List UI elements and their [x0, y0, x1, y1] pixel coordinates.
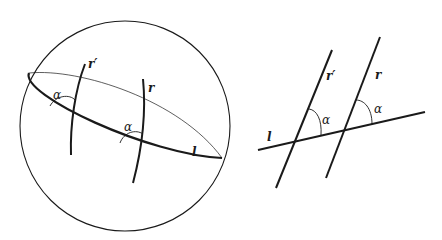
angle-arc-plane-2: [356, 100, 372, 124]
label-r-prime-plane: r′: [326, 69, 336, 83]
label-alpha-1: α: [53, 88, 61, 102]
label-r: r: [148, 81, 156, 95]
angle-arc-plane-1: [309, 109, 321, 135]
line-l-plane: [258, 112, 425, 150]
label-r-plane: r: [375, 68, 383, 82]
diagram-canvas: r′ r α α l r′ r α α l: [0, 0, 442, 240]
label-alpha-plane-2: α: [374, 102, 382, 116]
label-alpha-plane-1: α: [322, 113, 330, 127]
label-l-plane: l: [267, 130, 272, 144]
sphere-figure: r′ r α α l: [20, 21, 230, 231]
line-r-plane: [326, 37, 380, 178]
label-r-prime: r′: [88, 57, 98, 71]
label-l: l: [192, 145, 197, 159]
label-alpha-2: α: [124, 120, 132, 134]
plane-figure: r′ r α α l: [258, 37, 425, 188]
